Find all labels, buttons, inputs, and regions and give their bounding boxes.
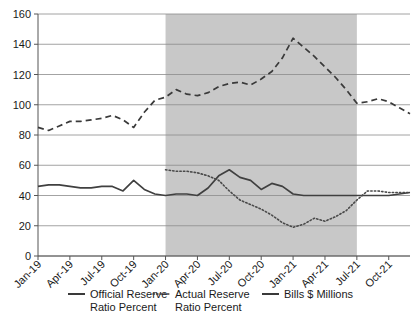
line-chart: 020406080100120140160 Jan-19Apr-19Jul-19… bbox=[0, 0, 417, 327]
y-tick-label: 0 bbox=[25, 250, 31, 262]
y-tick-label: 100 bbox=[13, 99, 31, 111]
legend-label-1-line2: Ratio Percent bbox=[90, 301, 157, 313]
y-tick-label: 160 bbox=[13, 8, 31, 20]
legend-label-3: Bills $ Millions bbox=[284, 288, 354, 300]
y-tick-label: 20 bbox=[19, 220, 31, 232]
y-tick-label: 60 bbox=[19, 159, 31, 171]
y-tick-label: 40 bbox=[19, 190, 31, 202]
legend-label-2-line2: Ratio Percent bbox=[175, 301, 242, 313]
legend-label-2: Actual Reserve bbox=[175, 288, 250, 300]
y-tick-label: 80 bbox=[19, 129, 31, 141]
y-tick-label: 120 bbox=[13, 69, 31, 81]
y-tick-label: 140 bbox=[13, 38, 31, 50]
chart-container: 020406080100120140160 Jan-19Apr-19Jul-19… bbox=[0, 0, 417, 327]
